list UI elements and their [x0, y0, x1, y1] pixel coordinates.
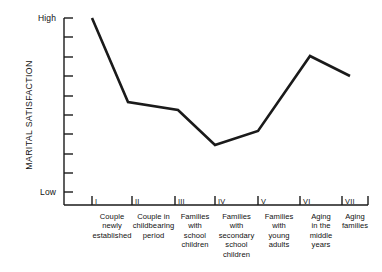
axis-frame	[64, 18, 368, 205]
stage-numeral-VI: VI	[303, 197, 310, 206]
y-axis-title: MARITAL SATISFACTION	[24, 45, 34, 185]
x-category-line: middle	[293, 231, 349, 240]
x-category-line: children	[209, 250, 265, 259]
stage-numeral-I: I	[95, 197, 97, 206]
x-axis-category-labels: CouplenewlyestablishedCouple inchildbear…	[0, 212, 382, 272]
x-category-line: years	[293, 240, 349, 249]
stage-numeral-IV: IV	[218, 197, 225, 206]
x-category-label-7: Agingfamilies	[327, 212, 382, 231]
y-axis-high-label: High	[16, 13, 56, 23]
y-axis-ticks	[64, 18, 73, 192]
marital-satisfaction-line	[92, 18, 350, 145]
stage-numeral-II: II	[135, 197, 140, 206]
stage-numeral-V: V	[261, 197, 266, 206]
x-category-line: families	[327, 221, 382, 230]
y-axis-low-label: Low	[16, 187, 56, 197]
stage-numeral-III: III	[178, 197, 185, 206]
marital-satisfaction-chart: High Low MARITAL SATISFACTION IIIIIIIVVV…	[0, 0, 382, 272]
x-category-line: Aging	[327, 212, 382, 221]
stage-numeral-VII: VII	[345, 197, 355, 206]
